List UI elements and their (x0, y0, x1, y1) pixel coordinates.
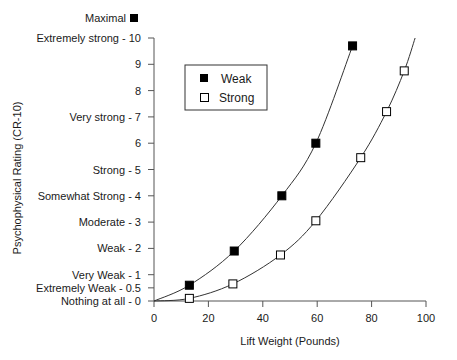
y-tick-label: 8 (135, 85, 141, 97)
x-tick-label: 100 (417, 312, 435, 324)
y-tick-label: Extremely Weak - 0.5 (36, 282, 141, 294)
y-tick-label: Moderate - 3 (79, 216, 141, 228)
maximal-annotation: Maximal (85, 12, 138, 24)
lift-rating-chart: Nothing at all - 0Extremely Weak - 0.5Ve… (0, 0, 457, 360)
x-tick-label: 60 (311, 312, 323, 324)
x-tick-label: 40 (257, 312, 269, 324)
y-tick-label: Very Weak - 1 (72, 269, 141, 281)
strong-data-point (383, 108, 391, 116)
y-tick-label: Strong - 5 (93, 164, 141, 176)
legend-weak-label: Weak (221, 72, 252, 86)
y-axis-ticks: Nothing at all - 0Extremely Weak - 0.5Ve… (36, 32, 154, 307)
x-tick-label: 80 (365, 312, 377, 324)
x-tick-label: 0 (151, 312, 157, 324)
strong-data-point (357, 154, 365, 162)
y-tick-label: Weak - 2 (97, 242, 141, 254)
y-tick-label: Extremely strong - 10 (36, 32, 141, 44)
y-axis-title: Psychophysical Rating (CR-10) (11, 102, 23, 255)
y-tick-label: Nothing at all - 0 (61, 295, 141, 307)
legend-strong-label: Strong (219, 91, 254, 105)
x-tick-label: 20 (202, 312, 214, 324)
weak-data-point (185, 281, 193, 289)
weak-data-point (349, 42, 357, 50)
y-tick-label: Very strong - 7 (69, 111, 141, 123)
weak-data-point (230, 247, 238, 255)
legend-weak-marker-icon (200, 74, 208, 82)
strong-data-point (229, 280, 237, 288)
strong-data-point (185, 294, 193, 302)
y-tick-label: 6 (135, 137, 141, 149)
maximal-marker-icon (130, 14, 138, 22)
weak-data-point (312, 139, 320, 147)
legend-strong-marker-icon (201, 94, 209, 102)
strong-data-point (312, 217, 320, 225)
legend: Weak Strong (185, 65, 267, 110)
strong-data-point (276, 251, 284, 259)
maximal-label: Maximal (85, 12, 126, 24)
x-axis-title: Lift Weight (Pounds) (240, 335, 339, 347)
weak-data-point (278, 192, 286, 200)
y-tick-label: 9 (135, 58, 141, 70)
strong-data-point (400, 67, 408, 75)
x-axis-ticks: 020406080100 (151, 301, 435, 324)
y-tick-label: Somewhat Strong - 4 (38, 190, 141, 202)
